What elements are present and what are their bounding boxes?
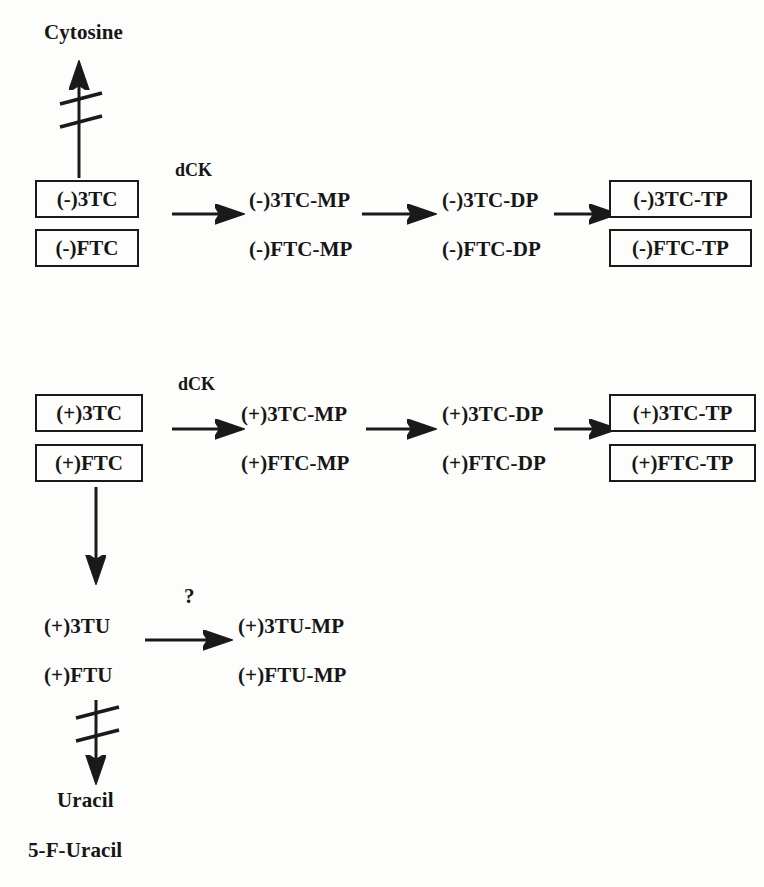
blocked-arrow-to-uracil (76, 700, 119, 780)
node-minus-3tc-tp: (-)3TC-TP (609, 180, 752, 218)
node-plus-ftc-dp: (+)FTC-DP (442, 453, 546, 474)
node-minus-ftc-mp: (-)FTC-MP (249, 239, 353, 260)
node-cytosine: Cytosine (44, 22, 123, 43)
node-plus-3tc: (+)3TC (35, 394, 143, 432)
node-5-f-uracil: 5-F-Uracil (28, 840, 122, 861)
pathway-diagram: Cytosine (-)3TC (-)FTC dCK (-)3TC-MP (-)… (0, 0, 764, 887)
node-plus-ftc-mp: (+)FTC-MP (241, 453, 350, 474)
node-minus-3tc-mp: (-)3TC-MP (249, 190, 350, 211)
blocked-arrow-to-cytosine (60, 65, 102, 178)
node-plus-ftc: (+)FTC (35, 444, 143, 482)
label-enzyme-dck-minus: dCK (175, 161, 212, 179)
label-enzyme-dck-plus: dCK (178, 375, 215, 393)
node-plus-ftu: (+)FTU (44, 665, 113, 686)
label-enzyme-unknown: ? (184, 586, 195, 607)
node-plus-3tc-mp: (+)3TC-MP (241, 404, 347, 425)
node-plus-ftu-mp: (+)FTU-MP (238, 665, 347, 686)
node-minus-ftc-tp: (-)FTC-TP (609, 229, 752, 267)
node-minus-3tc-dp: (-)3TC-DP (442, 190, 539, 211)
node-uracil: Uracil (57, 790, 114, 811)
node-plus-3tu: (+)3TU (44, 616, 110, 637)
node-minus-3tc: (-)3TC (35, 180, 139, 218)
node-plus-3tu-mp: (+)3TU-MP (238, 616, 344, 637)
node-plus-ftc-tp: (+)FTC-TP (609, 444, 756, 482)
node-plus-3tc-tp: (+)3TC-TP (609, 394, 756, 432)
node-plus-3tc-dp: (+)3TC-DP (442, 404, 544, 425)
node-minus-ftc: (-)FTC (35, 229, 139, 267)
node-minus-ftc-dp: (-)FTC-DP (442, 239, 541, 260)
